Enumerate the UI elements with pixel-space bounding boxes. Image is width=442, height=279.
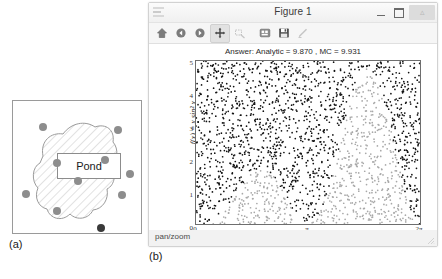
resize-grip[interactable] <box>427 237 435 245</box>
y-tick-label: 4 <box>181 92 193 100</box>
back-arrow-icon[interactable] <box>172 25 190 42</box>
sample-dot <box>114 126 122 134</box>
panel-a-caption: (a) <box>9 238 22 250</box>
figure-canvas[interactable]: Answer: Analytic = 9.870 , MC = 9.931 f(… <box>149 44 437 230</box>
sample-dot <box>53 159 61 167</box>
pan-move-icon[interactable] <box>210 24 230 43</box>
maximize-button[interactable] <box>391 5 407 20</box>
figure-toolbar[interactable] <box>149 23 437 44</box>
y-tick-label: 1 <box>181 191 193 199</box>
plot-title: Answer: Analytic = 9.870 , MC = 9.931 <box>149 47 437 56</box>
sample-dot <box>39 123 47 131</box>
title-bar[interactable]: Figure 1 ▵ <box>149 3 437 23</box>
y-tick-label: 5 <box>181 59 193 67</box>
pond-label: Pond <box>76 160 102 172</box>
sample-dot <box>101 156 109 164</box>
edit-axis-icon[interactable] <box>294 25 312 42</box>
sample-dot <box>74 177 82 185</box>
scatter-points <box>196 61 420 224</box>
forward-arrow-icon[interactable] <box>191 25 209 42</box>
plot-axes[interactable] <box>195 60 421 225</box>
sample-dot <box>53 207 61 215</box>
pond-label-box: Pond <box>57 153 121 179</box>
status-text: pan/zoom <box>155 232 190 241</box>
sample-dot <box>118 191 126 199</box>
save-figure-icon[interactable] <box>275 25 293 42</box>
pond-diagram: Pond <box>12 100 142 234</box>
y-tick-label: 3 <box>181 125 193 133</box>
configure-subplots-icon[interactable] <box>256 25 274 42</box>
minimize-button[interactable] <box>373 5 389 20</box>
figure-window[interactable]: Figure 1 ▵ <box>148 2 438 247</box>
home-icon[interactable] <box>153 25 171 42</box>
close-button[interactable]: ▵ <box>409 5 435 20</box>
zoom-rect-icon[interactable] <box>231 25 249 42</box>
sample-dot-dark <box>97 224 105 232</box>
window-controls: ▵ <box>373 5 435 20</box>
panel-a: Pond (a) <box>0 0 160 279</box>
y-tick-label: 2 <box>181 158 193 166</box>
sample-dot <box>126 170 134 178</box>
panel-b-caption: (b) <box>149 250 162 262</box>
status-bar: pan/zoom <box>149 230 437 246</box>
sample-dot <box>22 190 30 198</box>
